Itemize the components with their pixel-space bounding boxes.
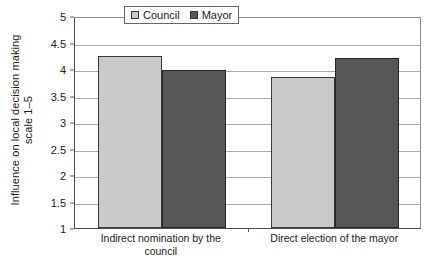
x-axis-category-label: Direct election of the mayor <box>248 232 422 245</box>
bar-mayor-group-1 <box>162 70 226 228</box>
y-axis-tick-label: 4.5 <box>51 38 66 50</box>
gridline <box>75 45 420 46</box>
y-axis-tick-label: 3.5 <box>51 91 66 103</box>
x-axis-category-label-line: council <box>74 245 248 258</box>
legend-label-mayor: Mayor <box>202 9 233 21</box>
y-axis-title-line-2: scale 1–5 <box>22 35 35 206</box>
bar-council-group-2 <box>271 77 335 228</box>
legend-swatch-council-icon <box>131 11 139 19</box>
y-axis-tick-label: 4 <box>60 64 66 76</box>
legend-label-council: Council <box>143 9 180 21</box>
bar-mayor-group-2 <box>335 58 399 228</box>
plot-area <box>74 17 421 229</box>
y-axis-tick-label: 1.5 <box>51 197 66 209</box>
x-axis-category-label-line: Direct election of the mayor <box>248 232 422 245</box>
legend: Council Mayor <box>124 6 239 24</box>
x-axis-category-label-line: Indirect nomination by the <box>74 232 248 245</box>
y-axis-title-text: Influence on local decision making scale… <box>9 35 35 206</box>
legend-swatch-mayor-icon <box>190 11 198 19</box>
bar-chart-figure: Influence on local decision making scale… <box>0 0 441 266</box>
y-axis-tick-label: 2.5 <box>51 144 66 156</box>
x-axis-category-label: Indirect nomination by thecouncil <box>74 232 248 258</box>
legend-item-mayor: Mayor <box>190 9 233 21</box>
y-axis-title-line-1: Influence on local decision making <box>9 35 21 206</box>
bar-council-group-1 <box>98 56 162 228</box>
y-axis-title: Influence on local decision making scale… <box>0 0 44 240</box>
y-axis-tick-label: 3 <box>60 117 66 129</box>
y-axis-tick-label: 2 <box>60 170 66 182</box>
x-axis-tick-mark <box>248 228 249 232</box>
y-axis-tick-label: 5 <box>60 11 66 23</box>
x-axis-category-labels: Indirect nomination by thecouncilDirect … <box>74 232 421 266</box>
legend-item-council: Council <box>131 9 180 21</box>
y-axis-tick-label: 1 <box>60 223 66 235</box>
y-axis-tick-labels: 54.543.532.521.51 <box>42 17 70 229</box>
